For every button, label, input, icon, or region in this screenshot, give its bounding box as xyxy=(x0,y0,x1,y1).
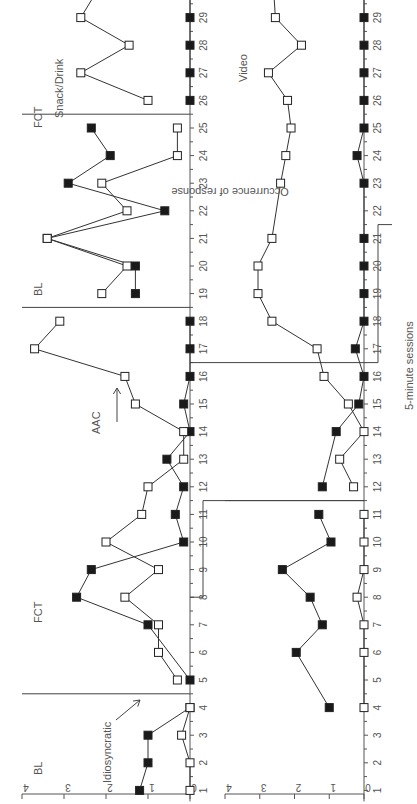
x-tick-label: 3 xyxy=(372,732,383,738)
data-point-filled xyxy=(315,510,323,518)
x-tick-label: 3 xyxy=(198,732,209,738)
x-tick-label: 22 xyxy=(372,205,383,217)
data-point-open xyxy=(186,759,194,767)
x-tick-label: 14 xyxy=(372,426,383,438)
series-line xyxy=(322,0,364,487)
x-tick-label: 28 xyxy=(372,39,383,51)
data-point-filled xyxy=(355,400,363,408)
data-point-filled xyxy=(64,179,72,187)
data-point-open xyxy=(264,69,272,77)
data-point-open xyxy=(287,124,295,132)
data-point-filled xyxy=(136,786,144,794)
phase-label-bl-1: BL xyxy=(32,762,44,775)
data-point-filled xyxy=(163,455,171,463)
data-point-open xyxy=(173,124,181,132)
data-point-filled xyxy=(306,593,314,601)
x-tick-label: 1 xyxy=(372,787,383,793)
data-point-open xyxy=(123,207,131,215)
series-line xyxy=(182,708,190,791)
x-tick-label: 25 xyxy=(372,122,383,134)
x-tick-label: 24 xyxy=(372,150,383,162)
data-point-open xyxy=(155,621,163,629)
x-tick-label: 14 xyxy=(198,426,209,438)
data-point-filled xyxy=(360,234,368,242)
series-line xyxy=(81,0,148,100)
data-point-open xyxy=(121,372,129,380)
data-point-filled xyxy=(360,69,368,77)
y-tick-label: 3 xyxy=(261,782,267,793)
x-tick-label: 23 xyxy=(372,177,383,189)
idiosyncratic-arrow-icon xyxy=(116,700,140,720)
data-point-filled xyxy=(351,345,359,353)
x-tick-label: 21 xyxy=(372,232,383,244)
y-tick-label: 4 xyxy=(23,782,29,793)
data-point-open xyxy=(360,510,368,518)
x-tick-label: 29 xyxy=(198,12,209,24)
data-point-filled xyxy=(360,262,368,270)
data-point-open xyxy=(102,538,110,546)
data-point-filled xyxy=(186,69,194,77)
data-point-open xyxy=(56,317,64,325)
x-tick-label: 20 xyxy=(198,260,209,272)
x-tick-label: 19 xyxy=(198,288,209,300)
series-line xyxy=(77,321,190,680)
x-tick-label: 12 xyxy=(198,481,209,493)
data-point-filled xyxy=(144,731,152,739)
data-point-open xyxy=(186,786,194,794)
data-point-filled xyxy=(144,759,152,767)
x-tick-label: 16 xyxy=(198,370,209,382)
x-tick-label: 5 xyxy=(198,677,209,683)
data-point-filled xyxy=(73,593,81,601)
x-tick-label: 2 xyxy=(198,760,209,766)
phase-label-fct-2: FCT xyxy=(32,106,44,128)
data-point-open xyxy=(98,179,106,187)
data-point-open xyxy=(268,317,276,325)
data-point-open xyxy=(360,648,368,656)
x-tick-label: 15 xyxy=(372,398,383,410)
data-point-open xyxy=(360,428,368,436)
data-point-open xyxy=(186,704,194,712)
data-point-filled xyxy=(360,179,368,187)
data-point-open xyxy=(43,234,51,242)
y-tick-label: 0 xyxy=(365,782,371,793)
data-point-open xyxy=(360,538,368,546)
data-point-open xyxy=(31,345,39,353)
data-point-open xyxy=(131,400,139,408)
x-tick-label: 6 xyxy=(198,649,209,655)
x-tick-label: 17 xyxy=(372,343,383,355)
data-point-open xyxy=(268,234,276,242)
x-tick-label: 24 xyxy=(198,150,209,162)
x-tick-label: 29 xyxy=(372,12,383,24)
data-point-open xyxy=(353,593,361,601)
series-line xyxy=(282,514,331,707)
data-point-open xyxy=(180,428,188,436)
annotation-idiosyncratic: Idiosyncratic xyxy=(101,721,113,783)
data-point-filled xyxy=(106,152,114,160)
data-point-filled xyxy=(325,704,333,712)
x-tick-label: 25 xyxy=(198,122,209,134)
data-point-filled xyxy=(180,538,188,546)
y-tick-label: 3 xyxy=(65,782,71,793)
x-tick-label: 27 xyxy=(372,67,383,79)
series-line xyxy=(258,0,364,487)
data-point-open xyxy=(277,179,285,187)
x-tick-label: 15 xyxy=(198,398,209,410)
data-point-filled xyxy=(360,96,368,104)
data-point-filled xyxy=(360,14,368,22)
x-tick-label: 5 xyxy=(372,677,383,683)
data-point-open xyxy=(180,455,188,463)
data-point-open xyxy=(271,14,279,22)
data-point-open xyxy=(360,566,368,574)
y-tick-label: 2 xyxy=(295,782,301,793)
bottom-panel: 0123412345678910111213141516171819202122… xyxy=(225,0,383,801)
data-point-filled xyxy=(318,483,326,491)
data-point-open xyxy=(77,14,85,22)
data-point-open xyxy=(138,510,146,518)
data-point-filled xyxy=(180,400,188,408)
x-tick-label: 13 xyxy=(372,453,383,465)
data-point-open xyxy=(144,96,152,104)
data-point-filled xyxy=(292,648,300,656)
data-point-open xyxy=(155,648,163,656)
data-point-open xyxy=(297,41,305,49)
y-tick-label: 1 xyxy=(149,782,155,793)
